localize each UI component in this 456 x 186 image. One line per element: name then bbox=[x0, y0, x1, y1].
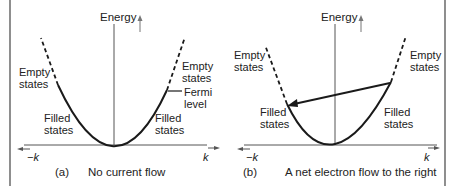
empty-states-right-b: Emptystates bbox=[410, 49, 441, 73]
k-pos-arrowhead-icon bbox=[434, 146, 440, 150]
label-line: Empty bbox=[182, 60, 213, 72]
k-pos-label-b: k bbox=[424, 151, 430, 163]
k-neg-label-b: −k bbox=[246, 151, 258, 163]
label-line: states bbox=[234, 61, 263, 73]
caption-letter-a: (a) bbox=[55, 166, 69, 178]
filled-states-curve bbox=[287, 82, 391, 145]
k-pos-label-a: k bbox=[203, 151, 209, 163]
label-line: Filled bbox=[44, 112, 70, 124]
label-line: Empty bbox=[19, 66, 50, 78]
energy-label-a: Energy bbox=[100, 11, 136, 23]
k-pos-arrowhead-icon bbox=[214, 146, 220, 150]
energy-arrowhead-icon bbox=[138, 15, 143, 21]
empty-states-curve-left bbox=[265, 45, 287, 104]
empty-states-left-a: Emptystates bbox=[19, 66, 50, 90]
caption-letter-b: (b) bbox=[243, 166, 257, 178]
label-line: states bbox=[44, 124, 73, 136]
label-line: states bbox=[19, 78, 48, 90]
filled-states-right-a: Filledstates bbox=[155, 112, 184, 136]
label-line: Empty bbox=[410, 49, 441, 61]
label-line: Filled bbox=[384, 106, 410, 118]
empty-states-right-a: Emptystates bbox=[182, 60, 213, 84]
empty-states-left-b: Emptystates bbox=[234, 49, 265, 73]
filled-states-left-b: Filledstates bbox=[260, 106, 289, 130]
label-line: states bbox=[155, 124, 184, 136]
label-line: states bbox=[182, 72, 211, 84]
label-line: states bbox=[410, 61, 439, 73]
k-neg-arrowhead-icon bbox=[237, 147, 243, 151]
k-neg-arrowhead-icon bbox=[17, 147, 23, 151]
energy-label-b: Energy bbox=[321, 11, 357, 23]
scattering-arrow bbox=[294, 83, 390, 104]
label-line: Filled bbox=[260, 106, 286, 118]
fermi-level-label: Fermilevel bbox=[184, 86, 212, 110]
label-line: Empty bbox=[234, 49, 265, 61]
empty-states-curve-right bbox=[391, 36, 406, 82]
label-line: Filled bbox=[155, 112, 181, 124]
filled-states-right-b: Filledstates bbox=[384, 106, 413, 130]
label-line: states bbox=[260, 118, 289, 130]
label-line: Fermi bbox=[184, 86, 212, 98]
panel-b bbox=[237, 15, 440, 151]
energy-arrowhead-icon bbox=[359, 15, 364, 21]
label-line: level bbox=[184, 98, 207, 110]
label-line: states bbox=[384, 118, 413, 130]
caption-a: No current flow bbox=[88, 166, 165, 178]
filled-states-curve bbox=[58, 85, 167, 146]
caption-b: A net electron flow to the right bbox=[285, 166, 437, 178]
k-neg-label-a: −k bbox=[27, 151, 39, 163]
filled-states-left-a: Filledstates bbox=[44, 112, 73, 136]
band-diagram bbox=[0, 0, 456, 186]
